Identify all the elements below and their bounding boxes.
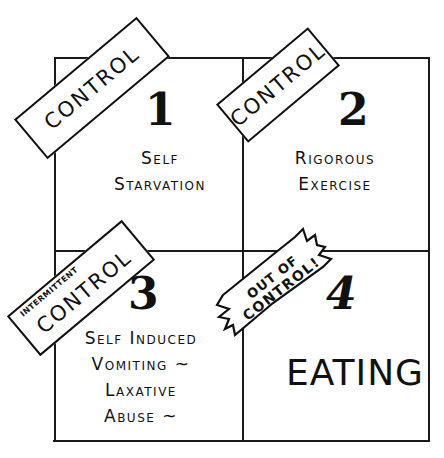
quadrant-3-line-1: Self Induced (66, 325, 216, 351)
quadrant-3-number: 3 (128, 272, 159, 316)
quadrant-2-line-1: Rigorous (260, 145, 410, 171)
quadrant-2-label: Rigorous Exercise (260, 145, 410, 197)
quadrant-1-line-2: Starvation (80, 171, 240, 197)
quadrant-4-number: 4 (326, 272, 357, 316)
quadrant-3-label: Self Induced Vomiting ~ Laxative Abuse ~ (66, 325, 216, 429)
quadrant-1-line-1: Self (80, 145, 240, 171)
quadrant-3-line-4: Abuse ~ (66, 403, 216, 429)
quadrant-2-control-tag: CONTROL (216, 27, 340, 142)
quadrant-1-tag-label: CONTROL (40, 41, 145, 134)
quadrant-diagram: CONTROL 1 Self Starvation CONTROL 2 Rigo… (0, 0, 444, 458)
quadrant-2-number: 2 (338, 88, 369, 132)
quadrant-3-line-2: Vomiting ~ (66, 351, 216, 377)
quadrant-1-label: Self Starvation (80, 145, 240, 197)
quadrant-2-tag-label: CONTROL (226, 38, 331, 131)
quadrant-1-number: 1 (145, 88, 176, 132)
quadrant-3-line-3: Laxative (66, 377, 216, 403)
quadrant-4-label: EATING (286, 352, 424, 393)
quadrant-2-line-2: Exercise (260, 171, 410, 197)
